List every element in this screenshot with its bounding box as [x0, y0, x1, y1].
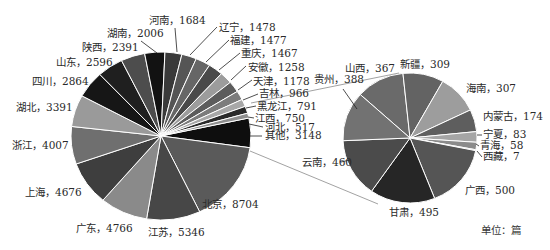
main-pie-slice-label: 福建，1477: [230, 34, 287, 46]
main-pie-slice-label: 上海，4676: [25, 186, 82, 198]
leader-line: [249, 124, 263, 127]
main-pie-slice-label: 江苏，5346: [148, 226, 205, 238]
secondary-pie-slice-label: 甘肃，495: [389, 206, 439, 218]
main-pie-slice-label: 广东，4766: [76, 222, 133, 234]
main-pie-slice-label: 河南，1684: [149, 14, 206, 26]
main-pie-slice-label: 山东，2596: [56, 56, 113, 68]
secondary-pie-slice-label: 新疆，309: [400, 58, 450, 70]
secondary-pie-slice-label: 海南，307: [466, 82, 516, 94]
main-pie-slice-label: 陕西，2391: [82, 41, 139, 53]
leader-line: [190, 27, 217, 55]
main-pie-slice-label: 天津，1178: [253, 75, 310, 87]
leader-line: [243, 94, 258, 100]
main-pie-slice-label: 河北，517: [265, 121, 315, 133]
main-pie-slice-label: 吉林，966: [259, 87, 309, 99]
main-pie-slice-label: 湖北，3391: [16, 101, 73, 113]
main-pie-slice-label: 湖南，2006: [107, 27, 164, 39]
pie-of-pie-chart: 其他，3148北京，8704江苏，5346广东，4766上海，4676浙江，40…: [0, 0, 550, 250]
leader-line: [246, 106, 256, 108]
secondary-pie-slice-label: 西藏，7: [483, 150, 520, 162]
secondary-pie-slice-label: 内蒙古，174: [483, 110, 543, 122]
secondary-pie-slice-label: 云南，460: [302, 156, 352, 168]
leader-line: [141, 41, 157, 53]
leader-line: [231, 66, 246, 80]
secondary-pie: [343, 73, 477, 203]
leader-line: [343, 89, 357, 109]
main-pie-slice-label: 黑龙江，791: [257, 100, 317, 112]
main-pie-slice-label: 北京，8704: [202, 198, 259, 210]
leader-line: [206, 40, 229, 62]
leader-line: [477, 151, 482, 157]
unit-label: 单位：篇: [481, 224, 521, 236]
main-pie-slice-label: 安徽，1258: [248, 61, 305, 73]
main-pie-slice-label: 重庆，1467: [241, 47, 298, 59]
leader-line: [219, 53, 240, 70]
leader-line: [238, 80, 252, 90]
secondary-pie-slice-label: 广西，500: [465, 184, 515, 196]
main-pie-slice-label: 浙江，4007: [12, 139, 69, 151]
secondary-pie-slice-label: 贵州，388: [314, 73, 364, 85]
leader-line: [175, 28, 177, 52]
main-pie: [71, 52, 251, 220]
main-pie-slice-label: 四川，2864: [32, 75, 89, 87]
main-pie-slice-label: 辽宁，1478: [219, 21, 276, 33]
